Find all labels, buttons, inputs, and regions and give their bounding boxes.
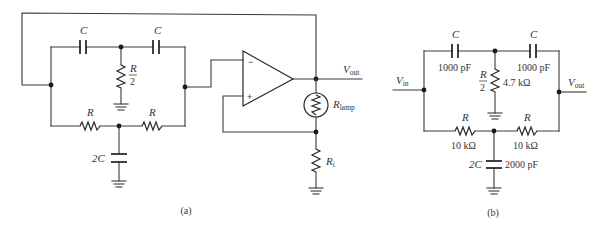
resistor-r-half-b <box>491 69 499 92</box>
label-2c-a: 2C <box>92 152 106 164</box>
label-r-bottom-right-b: R <box>523 111 531 123</box>
label-ri: Ri <box>325 155 335 169</box>
label-cap-top-left: C <box>80 24 88 36</box>
ground-icon <box>112 181 126 187</box>
capacitor-c-top-right <box>153 40 159 54</box>
ground-icon <box>309 188 323 194</box>
circuit-a: C C R 2 R R 2C <box>22 13 362 217</box>
resistor-r-bottom-right-b <box>517 127 537 135</box>
capacitor-2c-a <box>111 154 127 162</box>
opamp-plus-sign: + <box>247 92 252 102</box>
label-r-bottom-left: R <box>86 106 94 118</box>
value-r-half-b: 4.7 kΩ <box>503 77 530 88</box>
value-r-bottom-right-b: 10 kΩ <box>513 140 538 151</box>
twin-t-circuit-figure: C C R 2 R R 2C <box>0 0 603 225</box>
label-cap-top-right: C <box>154 24 162 36</box>
resistor-r-bottom-left-b <box>455 127 475 135</box>
capacitor-c-top-right-b <box>530 44 536 58</box>
label-2c-b: 2C <box>469 158 483 170</box>
label-r-half-num: R <box>129 62 137 74</box>
value-2c-b: 2000 pF <box>505 159 539 170</box>
resistor-r-bottom-right <box>142 122 162 130</box>
ground-icon <box>487 188 501 194</box>
value-cap-top-left-b: 1000 pF <box>438 62 472 73</box>
opamp-minus-sign: − <box>248 57 253 67</box>
resistor-r-bottom-left <box>80 122 100 130</box>
label-r-half-den-b: 2 <box>480 82 485 93</box>
circuit-b: Vin C C 1000 pF 1000 pF Vout R 2 4.7 kΩ <box>393 28 586 219</box>
caption-a: (a) <box>180 205 191 217</box>
ground-icon <box>488 113 502 119</box>
resistor-ri <box>312 149 320 172</box>
capacitor-c-top-left-b <box>452 44 458 58</box>
value-r-bottom-left-b: 10 kΩ <box>451 140 476 151</box>
lamp-resistor-icon <box>304 93 328 117</box>
label-r-lamp: Rlamp <box>332 98 355 112</box>
label-cap-top-left-b: C <box>452 28 460 40</box>
label-r-half-num-b: R <box>479 68 487 80</box>
resistor-r-half-a <box>117 65 125 88</box>
label-r-half-den: 2 <box>130 76 135 87</box>
capacitor-2c-b <box>486 161 502 168</box>
label-vin: Vin <box>396 74 409 88</box>
feedback-wire <box>22 13 316 85</box>
caption-b: (b) <box>487 207 499 219</box>
ground-icon <box>114 104 128 110</box>
capacitor-c-top-left <box>80 40 86 54</box>
label-cap-top-right-b: C <box>530 28 538 40</box>
label-vout-a: Vout <box>343 63 360 77</box>
value-cap-top-right-b: 1000 pF <box>517 62 551 73</box>
label-r-bottom-left-b: R <box>461 111 469 123</box>
label-vout-b: Vout <box>568 76 585 90</box>
label-r-bottom-right: R <box>148 106 156 118</box>
